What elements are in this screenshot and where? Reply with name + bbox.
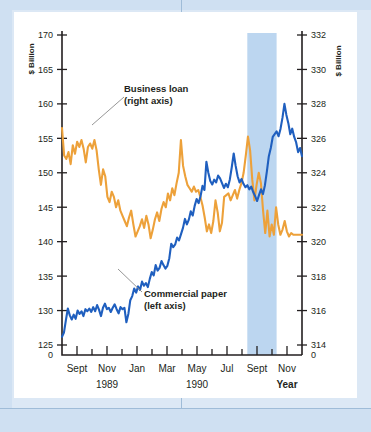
right-axis-tick-label: 332 — [311, 30, 326, 40]
chart-plate: 0125130135140145150155160165170031431631… — [14, 12, 357, 398]
right-axis-tick-label: 320 — [311, 237, 326, 247]
x-axis-tick-label: Jul — [221, 363, 234, 374]
series-annotation-title: Commercial paper — [144, 288, 227, 299]
x-axis-year-label: 1989 — [96, 379, 119, 390]
series-annotation-axis: (right axis) — [124, 95, 173, 106]
page-margin-bottom — [0, 409, 371, 432]
figure-root: 0125130135140145150155160165170031431631… — [0, 0, 371, 432]
x-axis-tick-label: Mar — [158, 363, 176, 374]
series-annotation-title: Business loan — [124, 83, 189, 94]
left-axis-tick-label: 0 — [48, 350, 53, 360]
right-axis-tick-label: 316 — [311, 306, 326, 316]
x-axis-tick-label: Nov — [278, 363, 296, 374]
right-axis-tick-label: 0 — [311, 350, 316, 360]
right-axis-tick-label: 322 — [311, 203, 326, 213]
x-axis-tick-label: May — [188, 363, 207, 374]
left-axis-tick-label: 160 — [38, 99, 53, 109]
right-axis-tick-label: 326 — [311, 134, 326, 144]
chart-annotations: Business loan(right axis)Commercial pape… — [92, 83, 227, 311]
left-axis-tick-label: 130 — [38, 306, 53, 316]
right-axis-tick-label: 324 — [311, 168, 326, 178]
series-annotation-axis: (left axis) — [144, 300, 186, 311]
left-axis-tick-label: 155 — [38, 134, 53, 144]
right-axis-tick-label: 328 — [311, 99, 326, 109]
left-axis-tick-label: 125 — [38, 340, 53, 350]
right-axis-tick-label: 318 — [311, 272, 326, 282]
x-axis-caption: Year — [276, 379, 297, 390]
x-axis-tick-label: Jan — [129, 363, 145, 374]
left-axis-tick-label: 140 — [38, 237, 53, 247]
page-margin-left — [0, 0, 12, 420]
left-axis-tick-label: 145 — [38, 203, 53, 213]
x-axis-tick-label: Nov — [98, 363, 116, 374]
left-axis-tick-label: 150 — [38, 168, 53, 178]
left-axis-tick-label: 165 — [38, 65, 53, 75]
page-margin-top — [0, 0, 371, 10]
line-chart: 0125130135140145150155160165170031431631… — [14, 12, 357, 398]
x-axis-tick-label: Sept — [67, 363, 88, 374]
annotation-leader-line — [92, 97, 124, 125]
right-axis-title: $ Billion — [334, 45, 343, 76]
left-axis-tick-label: 135 — [38, 272, 53, 282]
left-axis-title: $ Billion — [27, 43, 36, 74]
right-axis-tick-label: 314 — [311, 340, 326, 350]
page-rule-horizontal — [0, 408, 371, 409]
x-axis-tick-label: Sept — [247, 363, 268, 374]
x-axis-labels: SeptNovJanMarMayJulSeptNov19891990Year — [67, 363, 298, 390]
x-axis-year-label: 1990 — [186, 379, 209, 390]
right-axis-tick-label: 330 — [311, 65, 326, 75]
left-axis-tick-label: 170 — [38, 30, 53, 40]
annotation-leader-line — [118, 269, 142, 292]
